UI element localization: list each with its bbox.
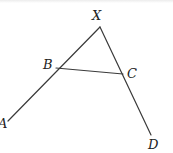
label-D: D (147, 137, 159, 152)
geometry-figure: X B C A D (0, 0, 173, 153)
label-C: C (127, 66, 137, 81)
segment-XD (100, 27, 151, 135)
segment-XA (8, 27, 100, 121)
segment-BC (56, 68, 123, 74)
label-B: B (42, 57, 53, 72)
label-A: A (0, 116, 7, 131)
label-X: X (91, 8, 102, 23)
